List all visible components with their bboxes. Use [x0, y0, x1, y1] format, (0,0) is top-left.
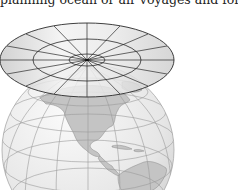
pole-point — [85, 59, 89, 61]
azimuthal-projection-figure — [0, 0, 238, 190]
projection-plane — [0, 23, 174, 97]
